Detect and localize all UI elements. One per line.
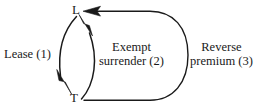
edge-exempt-surrender-path-group bbox=[79, 15, 94, 100]
edge-label-reverse-premium: Reverse premium (3) bbox=[190, 40, 253, 68]
edge-label-exempt-surrender-line2: surrender (2) bbox=[99, 54, 164, 68]
edge-exempt-surrender-arrowhead bbox=[79, 15, 93, 37]
edge-label-reverse-premium-line1: Reverse bbox=[190, 40, 253, 54]
node-label-L: L bbox=[72, 3, 80, 16]
node-label-T: T bbox=[70, 91, 78, 104]
cycle-diagram: L T Lease (1) Exempt surrender (2) Rever… bbox=[0, 0, 257, 109]
edge-exempt-surrender-curve bbox=[82, 33, 95, 99]
edge-label-exempt-surrender-line1: Exempt bbox=[99, 40, 164, 54]
edge-lease-curve bbox=[60, 17, 77, 77]
edge-lease-path-group bbox=[57, 17, 77, 95]
edge-label-reverse-premium-line2: premium (3) bbox=[190, 54, 253, 68]
edge-label-exempt-surrender: Exempt surrender (2) bbox=[99, 40, 164, 68]
edge-label-lease: Lease (1) bbox=[4, 47, 51, 61]
edge-label-lease-line1: Lease (1) bbox=[4, 47, 51, 61]
